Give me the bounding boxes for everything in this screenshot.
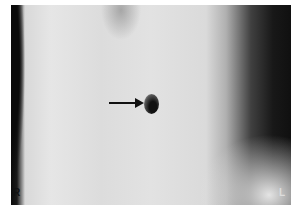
- arrow-icon: [109, 102, 137, 104]
- abdomen-photo: [11, 5, 291, 205]
- left-side-marker: L: [279, 187, 285, 198]
- right-side-marker: R: [13, 187, 20, 198]
- umbilicus: [144, 94, 159, 114]
- arrow-head-icon: [135, 98, 144, 108]
- shadow-region: [101, 5, 141, 45]
- dark-left-edge: [11, 5, 25, 205]
